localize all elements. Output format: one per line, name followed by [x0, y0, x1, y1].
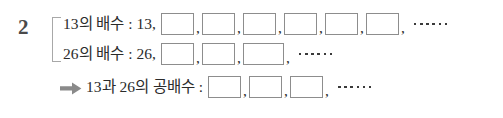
comma-separator: ,: [323, 80, 331, 102]
comma-separator: ,: [194, 47, 202, 69]
ellipsis-dot: [426, 23, 429, 26]
ellipsis-dot: [420, 23, 423, 26]
problem-number: 2: [18, 17, 29, 38]
answer-boxes-multiples-of-26: ,,,: [161, 43, 292, 65]
ellipsis-dot: [324, 53, 327, 56]
comma-separator: ,: [282, 80, 290, 102]
ellipsis-dot: [350, 86, 353, 89]
ellipsis: [338, 86, 372, 89]
answer-box[interactable]: [243, 43, 284, 65]
answer-box[interactable]: [366, 13, 399, 35]
comma-separator: ,: [276, 17, 284, 39]
ellipsis-dot: [369, 86, 372, 89]
ellipsis-dot: [432, 23, 435, 26]
comma-separator: ,: [317, 17, 325, 39]
ellipsis-dot: [414, 23, 417, 26]
answer-boxes-common-multiples: ,,,: [208, 76, 331, 98]
row-label-multiples-of-26: 26의 배수 : 26,: [63, 43, 156, 65]
row-label-common-multiples: 13과 26의 공배수 :: [86, 76, 203, 98]
right-arrow-icon: [60, 82, 82, 95]
comma-separator: ,: [284, 47, 292, 69]
ellipsis-dot: [439, 23, 442, 26]
ellipsis-dot: [357, 86, 360, 89]
ellipsis-dot: [344, 86, 347, 89]
ellipsis-multiples-of-13: [407, 23, 448, 26]
comma-separator: ,: [194, 17, 202, 39]
answer-box[interactable]: [161, 13, 194, 35]
ellipsis-dot: [317, 53, 320, 56]
grouping-bracket: [52, 17, 61, 62]
ellipsis: [414, 23, 448, 26]
ellipsis-multiples-of-26: [292, 53, 333, 56]
ellipsis-dot: [330, 53, 333, 56]
answer-box[interactable]: [161, 43, 194, 65]
row-multiples-of-26: 26의 배수 : 26, ,,,: [63, 43, 332, 65]
answer-box[interactable]: [243, 13, 276, 35]
row-common-multiples: 13과 26의 공배수 : ,,,: [60, 76, 371, 98]
comma-separator: ,: [241, 80, 249, 102]
ellipsis: [299, 53, 333, 56]
comma-separator: ,: [235, 17, 243, 39]
answer-box[interactable]: [202, 43, 235, 65]
ellipsis-common-multiples: [331, 86, 372, 89]
worksheet-problem-container: 2 13의 배수 : 13, ,,,,,, 26의 배수 : 26, ,,, 1…: [0, 0, 503, 118]
comma-separator: ,: [358, 17, 366, 39]
ellipsis-dot: [363, 86, 366, 89]
answer-box[interactable]: [325, 13, 358, 35]
ellipsis-dot: [305, 53, 308, 56]
answer-box[interactable]: [290, 76, 323, 98]
comma-separator: ,: [235, 47, 243, 69]
answer-box[interactable]: [208, 76, 241, 98]
ellipsis-dot: [299, 53, 302, 56]
row-label-multiples-of-13: 13의 배수 : 13,: [63, 13, 156, 35]
row-multiples-of-13: 13의 배수 : 13, ,,,,,,: [63, 13, 447, 35]
comma-separator: ,: [399, 17, 407, 39]
ellipsis-dot: [445, 23, 448, 26]
answer-box[interactable]: [284, 13, 317, 35]
answer-box[interactable]: [202, 13, 235, 35]
ellipsis-dot: [338, 86, 341, 89]
answer-box[interactable]: [249, 76, 282, 98]
ellipsis-dot: [311, 53, 314, 56]
answer-boxes-multiples-of-13: ,,,,,,: [161, 13, 407, 35]
